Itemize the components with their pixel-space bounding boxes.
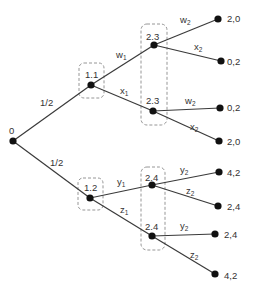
action-label-z2-b: z2 — [190, 249, 199, 261]
node-label-2-4-lower: 2.4 — [145, 221, 158, 232]
node-label-1-1: 1.1 — [85, 69, 98, 80]
payoff-label: 2,4 — [224, 229, 237, 240]
root-label: 0 — [9, 125, 14, 136]
node-1-2 — [86, 194, 93, 201]
payoff-label: 2,4 — [227, 201, 240, 212]
action-label-w2-b: w2 — [184, 95, 196, 107]
action-label-z2-a: z2 — [186, 185, 195, 197]
action-label-x1: x1 — [120, 85, 129, 97]
edge-w2-b — [153, 108, 220, 111]
action-label-x2-b: x2 — [190, 121, 199, 133]
payoff-label: 4,2 — [227, 167, 240, 178]
edge-y2-b — [152, 234, 215, 236]
payoff-label: 2,0 — [227, 13, 240, 24]
edge-root-to-1-2 — [13, 141, 90, 198]
payoff-label: 4,2 — [224, 270, 237, 281]
edge-z2-a — [152, 185, 218, 206]
node-label-1-2: 1.2 — [84, 182, 97, 193]
terminal-node — [216, 104, 223, 111]
terminal-node — [215, 168, 222, 175]
edge-root-to-1-1 — [13, 85, 91, 141]
payoff-label: 0,2 — [227, 56, 240, 67]
game-tree: 0 1/2 1/2 1.1 1.2 2.3 2.3 2.4 2.4 w1 x1 … — [0, 0, 254, 293]
root-node — [9, 137, 16, 144]
node-2-4-lower — [148, 232, 155, 239]
action-label-y2-a: y2 — [180, 164, 189, 176]
action-label-w1: w1 — [115, 49, 127, 61]
edge-z2-b — [152, 236, 215, 274]
terminal-node — [214, 15, 221, 22]
node-2-3-lower — [149, 107, 156, 114]
payoff-label: 0,2 — [227, 102, 240, 113]
terminal-node — [214, 202, 221, 209]
action-label-w2-a: w2 — [179, 14, 191, 26]
node-label-2-4-upper: 2.4 — [145, 172, 158, 183]
chance-prob-lower: 1/2 — [50, 157, 63, 168]
chance-prob-upper: 1/2 — [40, 97, 53, 108]
action-label-z1: z1 — [120, 204, 129, 216]
edge-x2-b — [153, 111, 219, 141]
node-2-3-upper — [150, 41, 157, 48]
payoff-label: 2,0 — [227, 136, 240, 147]
action-label-y1: y1 — [117, 176, 126, 188]
action-label-y2-b: y2 — [180, 220, 189, 232]
node-1-1 — [87, 81, 94, 88]
node-label-2-3-upper: 2.3 — [146, 31, 159, 42]
terminal-node — [217, 57, 224, 64]
terminal-node — [211, 270, 218, 277]
terminal-node — [215, 137, 222, 144]
terminal-node — [211, 230, 218, 237]
node-label-2-3-lower: 2.3 — [146, 95, 159, 106]
edge-x2-a — [154, 45, 221, 61]
action-label-x2-a: x2 — [194, 41, 203, 53]
